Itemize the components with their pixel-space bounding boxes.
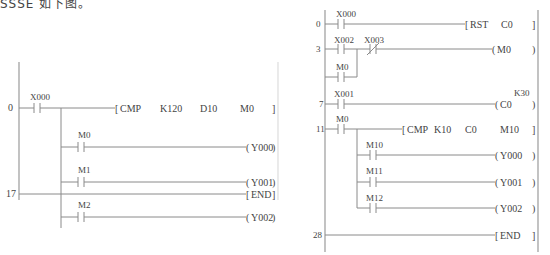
svg-text:]: ] [272, 103, 275, 114]
contact-label: X000 [336, 9, 356, 19]
coil-label: M0 [497, 44, 511, 55]
svg-text:]: ] [272, 189, 275, 200]
contact-label: M12 [366, 193, 383, 203]
svg-text:[: [ [465, 19, 468, 30]
svg-text:(: ( [492, 44, 496, 56]
svg-text:[: [ [402, 124, 405, 135]
contact-label: M1 [78, 165, 91, 175]
contact-label: M11 [366, 166, 383, 176]
coil-label: Y001 [251, 177, 273, 188]
svg-text:(: ( [495, 203, 499, 215]
contact-label: M0 [336, 114, 349, 124]
operand: M10 [500, 124, 519, 135]
svg-text:(: ( [495, 177, 499, 189]
contact-label: M2 [78, 200, 91, 210]
nc-contact-label: X003 [364, 35, 384, 45]
step-number: 17 [6, 188, 16, 199]
step-number: 7 [319, 99, 324, 109]
step-number: 0 [316, 19, 321, 29]
coil-label: Y000 [251, 142, 273, 153]
step-number: 0 [8, 102, 13, 113]
svg-text:(: ( [246, 212, 250, 224]
instruction-name: CMP [120, 103, 142, 114]
instruction-bracket: [ [115, 103, 118, 114]
instruction-name: CMP [407, 124, 429, 135]
svg-text:): ) [272, 177, 275, 189]
instruction-name: END [500, 230, 521, 241]
preset-value: K30 [514, 88, 530, 98]
ladder-diagrams: 0 X000 [ CMP K120 D10 M0 ] M0 ( Y000 ) M… [0, 0, 550, 255]
right-ladder-diagram: 0 X000 [ RST C0 ] 3 X002 X003 ( M0 ) M0 … [313, 9, 538, 252]
coil-label: Y000 [500, 150, 522, 161]
step-number: 28 [313, 230, 323, 240]
svg-text:): ) [272, 212, 275, 224]
svg-text:[: [ [246, 189, 249, 200]
contact-label: X001 [334, 89, 354, 99]
svg-text:): ) [272, 142, 275, 154]
contact-label: M0 [336, 62, 349, 72]
svg-text:(: ( [495, 150, 499, 162]
operand: C0 [465, 124, 477, 135]
svg-text:]: ] [532, 124, 535, 135]
svg-text:): ) [532, 44, 535, 56]
coil-label: Y002 [500, 203, 522, 214]
operand: D10 [200, 103, 217, 114]
operand: M0 [240, 103, 254, 114]
operand: K10 [434, 124, 451, 135]
svg-text:]: ] [532, 19, 535, 30]
coil-label: C0 [500, 99, 512, 110]
left-ladder-diagram: 0 X000 [ CMP K120 D10 M0 ] M0 ( Y000 ) M… [6, 62, 278, 228]
svg-text:(: ( [246, 177, 250, 189]
contact-label: X000 [30, 92, 50, 102]
contact-label: X002 [334, 35, 354, 45]
instruction-name: RST [470, 19, 488, 30]
instruction-name: END [251, 189, 272, 200]
svg-text:): ) [532, 177, 535, 189]
svg-text:[: [ [495, 230, 498, 241]
operand: K120 [160, 103, 182, 114]
step-number: 3 [316, 44, 321, 54]
contact-label: M10 [366, 140, 384, 150]
svg-text:): ) [532, 99, 535, 111]
coil-label: Y001 [500, 177, 522, 188]
svg-text:(: ( [246, 142, 250, 154]
operand: C0 [501, 19, 513, 30]
svg-text:): ) [532, 203, 535, 215]
svg-text:(: ( [495, 99, 499, 111]
svg-text:]: ] [532, 230, 535, 241]
coil-label: Y002 [251, 212, 273, 223]
step-number: 11 [316, 124, 325, 134]
svg-text:): ) [532, 150, 535, 162]
contact-label: M0 [78, 130, 91, 140]
